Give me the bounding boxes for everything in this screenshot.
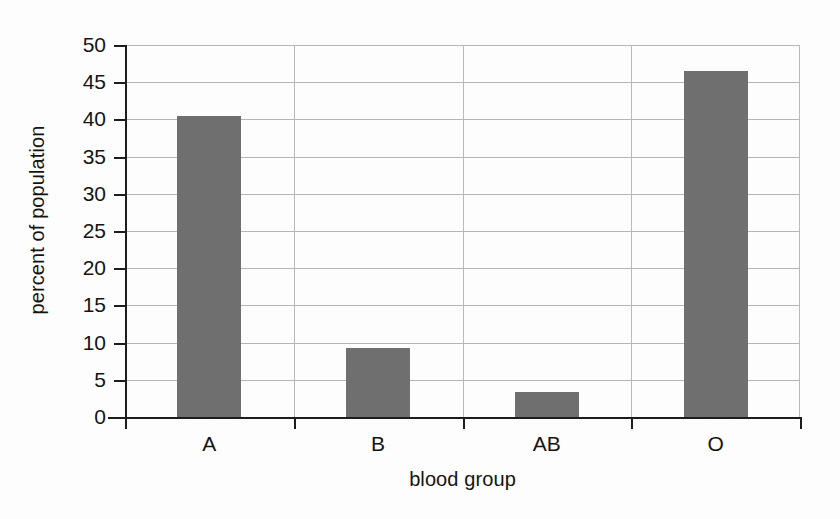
y-tick-label: 15 [46, 294, 106, 315]
x-axis-tick [294, 417, 296, 429]
gridline-vertical [463, 45, 464, 417]
y-tick-label: 10 [46, 332, 106, 353]
y-axis-tick [114, 417, 125, 419]
y-axis-tick [114, 157, 125, 159]
y-tick-label: 45 [46, 71, 106, 92]
bar-chart: percent of population 051015202530354045… [0, 0, 840, 519]
bar-b [346, 348, 410, 417]
bar-o [684, 71, 748, 417]
y-tick-label: 35 [46, 146, 106, 167]
bar-a [177, 116, 241, 417]
x-axis-tick [631, 417, 633, 429]
y-axis-tick [114, 45, 125, 47]
y-axis-tick [114, 380, 125, 382]
x-tick-label: A [149, 432, 269, 456]
y-axis-tick [114, 119, 125, 121]
y-axis-line [125, 45, 127, 418]
gridline-vertical [294, 45, 295, 417]
y-tick-label: 20 [46, 257, 106, 278]
x-axis-line [108, 417, 802, 419]
y-tick-label: 30 [46, 183, 106, 204]
y-axis-tick [114, 231, 125, 233]
y-tick-label: 50 [46, 34, 106, 55]
x-axis-tick [125, 417, 127, 429]
x-tick-label: B [318, 432, 438, 456]
y-tick-label: 5 [46, 369, 106, 390]
y-axis-tick [114, 268, 125, 270]
x-axis-title: blood group [125, 468, 800, 491]
x-tick-label: AB [487, 432, 607, 456]
x-tick-label: O [656, 432, 776, 456]
y-tick-label: 25 [46, 220, 106, 241]
x-axis-tick [463, 417, 465, 429]
y-axis-tick [114, 343, 125, 345]
y-tick-label: 40 [46, 108, 106, 129]
x-axis-tick [800, 417, 802, 429]
y-axis-tick [114, 305, 125, 307]
bar-ab [515, 392, 579, 417]
plot-area [125, 45, 800, 417]
y-axis-tick [114, 194, 125, 196]
gridline-vertical [631, 45, 632, 417]
y-tick-label: 0 [46, 406, 106, 427]
y-axis-tick [114, 82, 125, 84]
